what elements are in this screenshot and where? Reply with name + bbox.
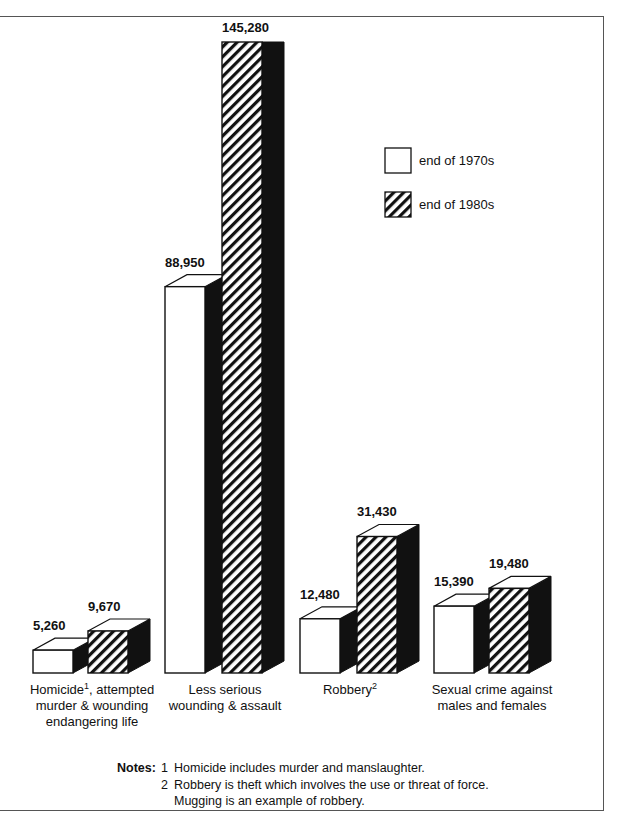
note-text: Homicide includes murder and manslaughte…: [174, 760, 425, 777]
legend-swatch: [385, 192, 411, 217]
note-number: 2: [161, 777, 174, 794]
legend-label: end of 1970s: [419, 153, 495, 168]
bar-chart: 5,26088,95012,48015,3909,670145,28031,43…: [0, 0, 630, 832]
value-label: 12,480: [300, 587, 340, 602]
note-number: [161, 793, 174, 810]
value-label: 5,260: [33, 618, 66, 633]
note-row-3: Mugging is an example of robbery.: [117, 793, 489, 810]
note-row-1: Notes: 1 Homicide includes murder and ma…: [117, 760, 489, 777]
bar-1970s: 12,480: [300, 587, 362, 673]
note-text: Mugging is an example of robbery.: [174, 793, 365, 810]
bar-1980s: 145,280: [222, 20, 284, 673]
category-label: Sexual crime againstmales and females: [432, 682, 553, 713]
bar-1970s: 5,260: [33, 618, 95, 673]
legend: end of 1970send of 1980s: [385, 148, 495, 217]
legend-item-1970s: end of 1970s: [385, 148, 495, 173]
bar-1970s: 88,950: [165, 255, 227, 673]
legend-item-1980s: end of 1980s: [385, 192, 495, 217]
notes: Notes: 1 Homicide includes murder and ma…: [117, 760, 489, 810]
bar-1980s: 31,430: [357, 504, 419, 673]
value-label: 9,670: [88, 599, 121, 614]
note-number: 1: [161, 760, 174, 777]
category-labels: Homicide1, attemptedmurder & woundingend…: [30, 681, 553, 729]
notes-label: Notes:: [117, 760, 161, 777]
value-label: 88,950: [165, 255, 205, 270]
value-label: 145,280: [222, 20, 269, 35]
value-label: 15,390: [434, 574, 474, 589]
category-label: Homicide1, attemptedmurder & woundingend…: [30, 681, 154, 729]
bars-layer: 5,26088,95012,48015,3909,670145,28031,43…: [33, 20, 551, 673]
value-label: 19,480: [489, 556, 529, 571]
note-text: Robbery is theft which involves the use …: [174, 777, 489, 794]
bar-1970s: 15,390: [434, 574, 496, 673]
category-label: Less seriouswounding & assault: [168, 682, 282, 713]
bar-1980s: 19,480: [489, 556, 551, 673]
category-label: Robbery2: [323, 681, 377, 697]
legend-label: end of 1980s: [419, 197, 495, 212]
value-label: 31,430: [357, 504, 397, 519]
bar-1980s: 9,670: [88, 599, 150, 673]
legend-swatch: [385, 148, 411, 173]
note-row-2: 2 Robbery is theft which involves the us…: [117, 777, 489, 794]
